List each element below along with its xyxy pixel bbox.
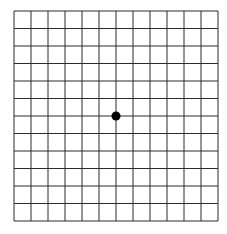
center-fixation-dot	[112, 112, 121, 121]
amsler-grid	[0, 0, 227, 234]
